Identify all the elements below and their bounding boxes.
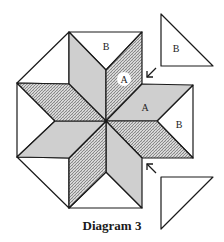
arrow-top-notch-icon [147, 68, 156, 77]
corner-triangle-top-left [17, 32, 69, 84]
label-floating-top-triangle: B [173, 43, 180, 54]
corner-triangle-bottom-left [17, 157, 69, 208]
label-top-triangle: B [103, 41, 110, 52]
quilt-star-diagram: B A A B B [0, 0, 224, 242]
loose-triangle-top [161, 14, 213, 66]
label-right-triangle: B [176, 119, 183, 130]
label-circled-diamond: A [120, 74, 128, 85]
diagram-caption: Diagram 3 [0, 218, 224, 234]
label-right-diamond: A [141, 102, 149, 113]
arrow-bottom-notch-icon [147, 164, 156, 173]
